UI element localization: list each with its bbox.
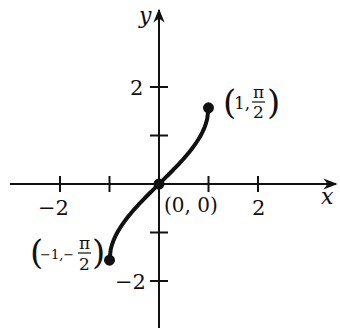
x-tick-label-neg2: −2: [38, 196, 69, 220]
origin-label: (0, 0): [164, 193, 218, 217]
svg-text:2: 2: [79, 254, 90, 274]
data-point: [104, 255, 115, 266]
data-point: [154, 179, 165, 190]
svg-text:): ): [267, 82, 280, 122]
svg-text:π: π: [79, 233, 90, 253]
svg-text:1,: 1,: [234, 93, 250, 113]
x-axis-label: x: [321, 184, 334, 209]
y-tick-label-2: 2: [130, 76, 143, 100]
x-tick-label-2: 2: [252, 196, 265, 220]
svg-text:): ): [92, 232, 105, 272]
y-axis-label: y: [138, 3, 152, 28]
svg-text:π: π: [253, 82, 264, 102]
bottom-point-label: ( −1,− π 2 ): [30, 232, 105, 274]
data-point: [203, 102, 214, 113]
svg-text:−1,−: −1,−: [40, 247, 74, 262]
y-tick-label-neg2: −2: [115, 270, 146, 294]
top-point-label: ( 1, π 2 ): [223, 82, 280, 122]
svg-text:2: 2: [253, 102, 264, 122]
arcsin-graph: x y −2 2 2 −2 (0, 0) ( 1, π 2 ) ( −1,− π…: [0, 0, 340, 328]
